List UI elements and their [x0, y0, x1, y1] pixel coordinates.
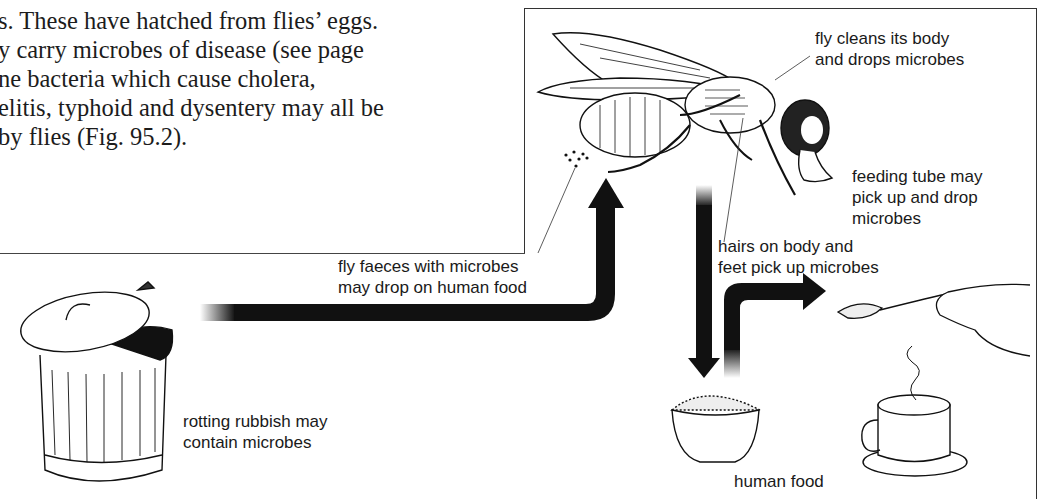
label-line: fly faeces with microbes: [338, 256, 527, 277]
label-line: fly cleans its body: [815, 28, 964, 49]
label-line: rotting rubbish may: [183, 411, 328, 432]
label-line: may drop on human food: [338, 277, 527, 298]
label-feeding-tube: feeding tube may pick up and drop microb…: [852, 166, 982, 229]
label-hairs: hairs on body and feet pick up microbes: [718, 236, 879, 278]
housefly-illustration: [538, 33, 832, 195]
label-line: microbes: [852, 208, 982, 229]
spoon-hand-illustration: [838, 284, 1030, 356]
label-line: contain microbes: [183, 432, 328, 453]
diagram-artwork: [0, 0, 1042, 499]
arrow-food-to-spoon: [724, 273, 826, 378]
label-line: hairs on body and: [718, 236, 879, 257]
label-rubbish: rotting rubbish may contain microbes: [183, 411, 328, 453]
dustbin-illustration: [16, 282, 172, 481]
label-line: feet pick up microbes: [718, 257, 879, 278]
teacup-illustration: [862, 346, 967, 476]
label-line: pick up and drop: [852, 187, 982, 208]
arrow-fly-to-bowl: [688, 185, 720, 378]
label-line: feeding tube may: [852, 166, 982, 187]
food-bowl-illustration: [672, 396, 760, 462]
label-human-food: human food: [734, 471, 824, 492]
label-fly-cleans: fly cleans its body and drops microbes: [815, 28, 964, 70]
label-line: and drops microbes: [815, 49, 964, 70]
label-faeces: fly faeces with microbes may drop on hum…: [338, 256, 527, 298]
arrow-rubbish-to-fly: [200, 178, 624, 321]
